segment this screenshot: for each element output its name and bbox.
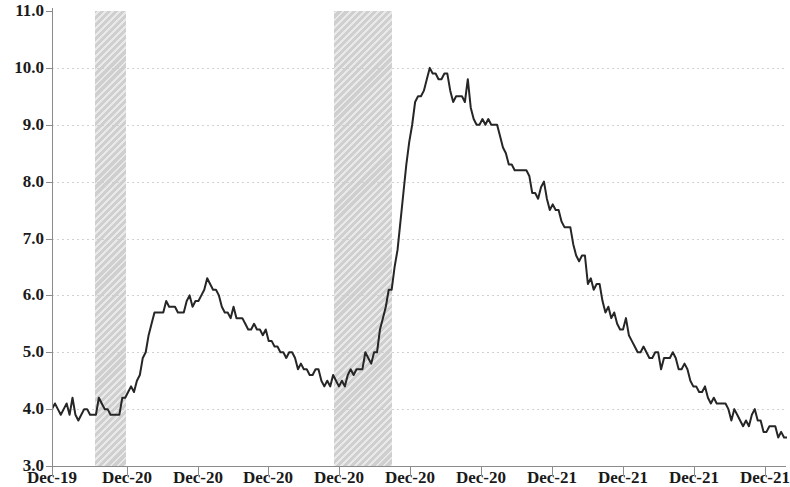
y-axis-tick <box>46 239 53 240</box>
y-axis-labels: 3.04.05.06.07.08.09.010.011.0 <box>0 0 44 477</box>
x-axis-tick <box>765 466 766 476</box>
y-axis-tick-label: 7.0 <box>0 230 44 247</box>
x-axis-tick <box>127 466 128 476</box>
unemployment-rate-line <box>52 68 787 438</box>
x-axis-tick <box>410 466 411 476</box>
y-axis-tick <box>46 125 53 126</box>
x-axis-line <box>52 466 786 467</box>
y-axis-tick-label: 8.0 <box>0 173 44 190</box>
y-axis-tick <box>46 68 53 69</box>
y-axis-tick <box>46 11 53 12</box>
y-axis-tick-label: 6.0 <box>0 286 44 303</box>
x-axis-tick <box>339 466 340 476</box>
x-axis-tick <box>552 466 553 476</box>
x-axis-tick <box>268 466 269 476</box>
y-axis-line <box>52 8 53 466</box>
series-layer <box>52 11 787 466</box>
x-axis-tick <box>694 466 695 476</box>
y-axis-tick-label: 5.0 <box>0 343 44 360</box>
y-axis-tick <box>46 182 53 183</box>
y-axis-tick-label: 9.0 <box>0 116 44 133</box>
y-axis-tick-label: 4.0 <box>0 400 44 417</box>
x-axis-tick <box>623 466 624 476</box>
x-axis-tick <box>481 466 482 476</box>
y-axis-tick-label: 11.0 <box>0 2 44 19</box>
y-axis-tick-label: 10.0 <box>0 59 44 76</box>
x-axis-tick <box>198 466 199 476</box>
y-axis-tick <box>46 409 53 410</box>
plot-area <box>52 11 787 466</box>
y-axis-tick <box>46 352 53 353</box>
x-axis-tick <box>52 466 53 476</box>
y-axis-tick <box>46 295 53 296</box>
